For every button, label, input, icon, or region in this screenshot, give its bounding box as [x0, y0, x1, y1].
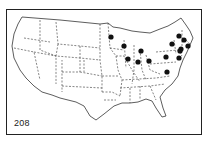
location-marker [164, 69, 169, 74]
location-marker [176, 33, 181, 38]
marker-layer [108, 33, 190, 74]
location-marker [146, 58, 151, 63]
location-marker [135, 59, 140, 64]
location-marker [138, 48, 143, 53]
location-marker [125, 56, 130, 61]
location-marker [181, 37, 186, 42]
us-map [0, 0, 207, 143]
location-marker [121, 43, 126, 48]
location-marker [176, 55, 181, 60]
location-marker [108, 34, 113, 39]
location-marker [169, 41, 174, 46]
location-marker [163, 54, 168, 59]
us-outline [12, 17, 193, 120]
map-label: 208 [14, 118, 30, 128]
location-marker [185, 43, 190, 48]
location-marker [177, 48, 182, 53]
